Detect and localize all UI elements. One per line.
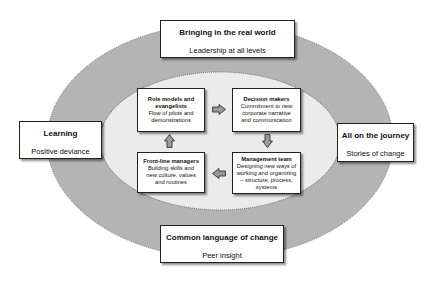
box-desc-line4: systems bbox=[233, 184, 300, 191]
box-title-line1: Role models and bbox=[138, 96, 204, 103]
box-all-on-journey: All on the journey Stories of change bbox=[337, 123, 414, 162]
box-title: Decision makers bbox=[233, 96, 300, 103]
box-desc-line3: and communication bbox=[233, 117, 300, 124]
arrow-right-icon bbox=[212, 104, 226, 115]
box-subtitle: Stories of change bbox=[338, 149, 413, 158]
arrow-up-icon bbox=[164, 134, 175, 148]
box-title: Learning bbox=[20, 129, 101, 138]
box-common-language: Common language of change Peer insight bbox=[160, 225, 284, 263]
box-subtitle: Peer insight bbox=[161, 251, 283, 260]
box-role-models: Role models and evangelists Flow of pilo… bbox=[137, 88, 205, 132]
box-subtitle: Positive deviance bbox=[20, 147, 101, 156]
box-desc-line3: and routines bbox=[138, 179, 204, 186]
box-desc-line1: Designing new ways of bbox=[233, 163, 300, 170]
box-title-line2: evangelists bbox=[138, 103, 204, 110]
box-subtitle: Leadership at all levels bbox=[161, 46, 294, 55]
arrow-left-icon bbox=[212, 168, 226, 179]
box-title: All on the journey bbox=[338, 131, 413, 140]
box-title: Management team bbox=[233, 156, 300, 163]
box-desc-line3: – structure, process, bbox=[233, 177, 300, 184]
box-bringing-real-world: Bringing in the real world Leadership at… bbox=[160, 20, 295, 58]
box-desc-line2: new culture, values bbox=[138, 172, 204, 179]
arrow-down-icon bbox=[262, 134, 273, 148]
box-title: Front-line managers bbox=[138, 158, 204, 165]
inner-ellipse bbox=[100, 72, 340, 210]
box-desc-line1: Commitment to new bbox=[233, 103, 300, 110]
box-desc-line2: working and organizing bbox=[233, 170, 300, 177]
box-desc-line2: demonstrations bbox=[138, 117, 204, 124]
box-title: Common language of change bbox=[161, 233, 283, 242]
box-decision-makers: Decision makers Commitment to new corpor… bbox=[232, 88, 301, 132]
box-learning: Learning Positive deviance bbox=[19, 121, 102, 159]
box-desc-line1: Building skills and bbox=[138, 165, 204, 172]
box-desc-line2: corporate narrative bbox=[233, 110, 300, 117]
box-front-line-managers: Front-line managers Building skills and … bbox=[137, 152, 205, 193]
box-management-team: Management team Designing new ways of wo… bbox=[232, 152, 301, 194]
box-desc-line1: Flow of pilots and bbox=[138, 110, 204, 117]
box-title: Bringing in the real world bbox=[161, 28, 294, 37]
